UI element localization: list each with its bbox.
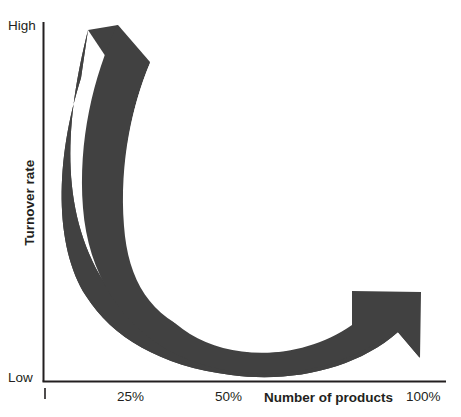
y-axis-title: Turnover rate bbox=[23, 153, 37, 253]
x-tick-label-50: 50% bbox=[215, 390, 242, 404]
turnover-rate-chart: High Low Turnover rate 25% 50% Number of… bbox=[0, 0, 461, 417]
arrow-inner-cut bbox=[123, 63, 348, 343]
x-tick-label-100: 100% bbox=[406, 390, 441, 404]
y-axis-low-label: Low bbox=[8, 371, 33, 385]
chart-canvas bbox=[0, 0, 461, 417]
x-tick-label-25: 25% bbox=[117, 390, 144, 404]
y-axis-high-label: High bbox=[8, 19, 36, 33]
x-axis-title: Number of products bbox=[264, 390, 393, 405]
